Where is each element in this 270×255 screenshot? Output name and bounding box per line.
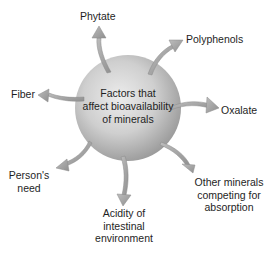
- label-other-minerals: Other minerals competing for absorption: [188, 176, 270, 214]
- label-phytate: Phytate: [80, 10, 116, 23]
- label-fiber: Fiber: [11, 88, 35, 101]
- label-line: Polyphenols: [186, 33, 243, 46]
- center-label-line: Factors that: [78, 87, 178, 100]
- center-label-line: affect bioavailability: [78, 100, 178, 113]
- label-line: environment: [90, 232, 158, 245]
- label-line: Phytate: [80, 10, 116, 23]
- label-line: Fiber: [11, 88, 35, 101]
- label-line: absorption: [188, 201, 270, 214]
- label-line: Other minerals: [188, 176, 270, 189]
- label-line: Acidity of: [90, 207, 158, 220]
- label-acidity: Acidity of intestinal environment: [90, 207, 158, 245]
- label-persons-need: Person's need: [6, 169, 52, 194]
- label-line: need: [6, 182, 52, 195]
- label-polyphenols: Polyphenols: [186, 33, 243, 46]
- arrow-polyphenols: [148, 40, 183, 75]
- center-label-line: of minerals: [78, 113, 178, 126]
- arrow-acidity: [117, 156, 131, 206]
- arrow-persons-need: [56, 141, 92, 171]
- label-oxalate: Oxalate: [221, 104, 257, 117]
- arrow-other-minerals: [160, 142, 195, 173]
- label-line: Person's: [6, 169, 52, 182]
- label-line: Oxalate: [221, 104, 257, 117]
- label-line: intestinal: [90, 220, 158, 233]
- label-line: competing for: [188, 189, 270, 202]
- center-label: Factors that affect bioavailability of m…: [78, 87, 178, 126]
